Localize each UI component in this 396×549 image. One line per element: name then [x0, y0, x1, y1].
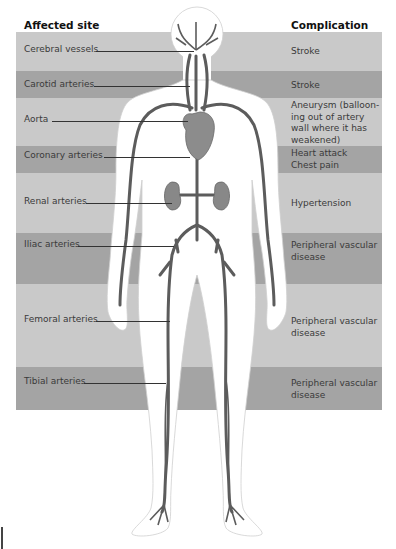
complication-femoral: Peripheral vascular disease [291, 316, 383, 339]
complication-coronary: Heart attack Chest pain [291, 148, 383, 171]
site-label-tibial: Tibial arteries [24, 376, 86, 386]
page-edge-marker [1, 527, 3, 549]
site-label-renal: Renal arteries [24, 196, 87, 206]
site-label-carotid: Carotid arteries [24, 79, 94, 89]
site-label-coronary: Coronary arteries [24, 150, 103, 160]
site-label-cerebral: Cerebral vessels [24, 44, 98, 54]
leader-renal [86, 203, 172, 204]
leader-femoral [96, 321, 170, 322]
leader-cerebral [96, 51, 194, 52]
complication-renal: Hypertension [291, 198, 383, 210]
left-kidney-icon [165, 182, 181, 210]
complication-tibial: Peripheral vascular disease [291, 378, 383, 401]
site-label-femoral: Femoral arteries [24, 314, 98, 324]
leader-carotid [94, 86, 190, 87]
leader-tibial [84, 383, 166, 384]
complication-cerebral: Stroke [291, 46, 383, 58]
complication-aorta: Aneurysm (balloon- ing out of artery wal… [291, 100, 383, 146]
leader-coronary [104, 157, 190, 158]
site-label-iliac: Iliac arteries [24, 239, 80, 249]
leader-aorta [52, 121, 188, 122]
site-label-aorta: Aorta [24, 114, 48, 124]
complication-carotid: Stroke [291, 80, 383, 92]
right-kidney-icon [213, 182, 229, 210]
leader-iliac [78, 246, 174, 247]
complication-iliac: Peripheral vascular disease [291, 240, 383, 263]
